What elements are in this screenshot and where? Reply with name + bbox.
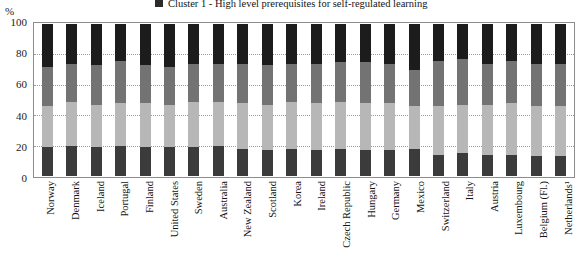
bar-segment bbox=[506, 61, 517, 104]
x-label-slot: Germany bbox=[378, 179, 403, 260]
stacked-bar[interactable] bbox=[164, 24, 175, 176]
stacked-bar[interactable] bbox=[335, 24, 346, 176]
bar-segment bbox=[457, 24, 468, 59]
bar-segment bbox=[506, 103, 517, 155]
x-axis-category-label: Finland bbox=[144, 181, 155, 213]
stacked-bar[interactable] bbox=[237, 24, 248, 176]
stacked-bar[interactable] bbox=[188, 24, 199, 176]
bar-segment bbox=[433, 106, 444, 155]
bar-segment bbox=[66, 102, 77, 146]
stacked-bar[interactable] bbox=[531, 24, 542, 176]
stacked-bar[interactable] bbox=[360, 24, 371, 176]
bar-segment bbox=[335, 24, 346, 62]
bar-segment bbox=[42, 106, 53, 147]
x-label-slot: Australia bbox=[205, 179, 230, 260]
stacked-bar[interactable] bbox=[555, 24, 566, 176]
stacked-bar[interactable] bbox=[115, 24, 126, 176]
bar-segment bbox=[188, 24, 199, 64]
stacked-bar[interactable] bbox=[91, 24, 102, 176]
bar-slot bbox=[133, 24, 157, 176]
bar-segment bbox=[188, 64, 199, 102]
bar-slot bbox=[280, 24, 304, 176]
bar-segment bbox=[506, 155, 517, 176]
x-axis-category-label: Czech Republic bbox=[341, 181, 352, 248]
bar-segment bbox=[409, 70, 420, 106]
stacked-bar[interactable] bbox=[311, 24, 322, 176]
x-axis-category-label: New Zealand bbox=[242, 181, 253, 237]
stacked-bar[interactable] bbox=[213, 24, 224, 176]
x-axis-category-label: Ireland bbox=[316, 181, 327, 211]
bar-slot bbox=[524, 24, 548, 176]
stacked-bar[interactable] bbox=[66, 24, 77, 176]
bar-segment bbox=[115, 103, 126, 146]
bar-segment bbox=[213, 64, 224, 102]
bar-segment bbox=[482, 24, 493, 64]
bar-slot bbox=[231, 24, 255, 176]
bar-segment bbox=[140, 65, 151, 103]
stacked-bar[interactable] bbox=[140, 24, 151, 176]
bar-segment bbox=[555, 156, 566, 176]
bar-segment bbox=[433, 155, 444, 176]
bar-segment bbox=[42, 147, 53, 176]
bar-slot bbox=[304, 24, 328, 176]
bar-segment bbox=[237, 103, 248, 149]
bar-segment bbox=[164, 24, 175, 67]
bar-segment bbox=[140, 24, 151, 65]
bar-segment bbox=[188, 102, 199, 148]
bar-segment bbox=[433, 24, 444, 60]
bar-segment bbox=[531, 64, 542, 107]
bar-segment bbox=[482, 155, 493, 176]
x-label-slot: Sweden bbox=[181, 179, 206, 260]
bar-segment bbox=[66, 24, 77, 64]
x-label-slot: Ireland bbox=[304, 179, 329, 260]
bar-slot bbox=[475, 24, 499, 176]
y-axis-tick: 20 bbox=[16, 141, 27, 153]
x-label-slot: Denmark bbox=[58, 179, 83, 260]
stacked-bar[interactable] bbox=[433, 24, 444, 176]
x-label-slot: Portugal bbox=[107, 179, 132, 260]
bar-segment bbox=[335, 102, 346, 149]
bar-segment bbox=[237, 24, 248, 64]
bar-slot bbox=[35, 24, 59, 176]
x-label-slot: Italy bbox=[452, 179, 477, 260]
y-axis-tick: 80 bbox=[16, 47, 27, 59]
bar-segment bbox=[42, 24, 53, 67]
bar-segment bbox=[91, 65, 102, 105]
y-axis-tick-labels: 100806040200 bbox=[0, 22, 30, 178]
legend-swatch-cluster1 bbox=[155, 0, 163, 7]
bar-slot bbox=[426, 24, 450, 176]
x-label-slot: Korea bbox=[279, 179, 304, 260]
bar-slot bbox=[84, 24, 108, 176]
x-axis-category-label: Austria bbox=[489, 181, 500, 212]
bar-slot bbox=[182, 24, 206, 176]
x-axis-category-label: Scotland bbox=[267, 181, 278, 218]
bar-segment bbox=[237, 64, 248, 104]
bar-segment bbox=[482, 105, 493, 155]
x-label-slot: Switzerland bbox=[427, 179, 452, 260]
bar-segment bbox=[384, 150, 395, 176]
bar-segment bbox=[42, 67, 53, 107]
x-axis-category-label: Switzerland bbox=[440, 181, 451, 231]
stacked-bar[interactable] bbox=[409, 24, 420, 176]
y-axis-tick: 0 bbox=[22, 172, 28, 184]
bar-segment bbox=[360, 24, 371, 62]
x-label-slot: Belgium (Fl.) bbox=[526, 179, 551, 260]
legend-label-cluster1: Cluster 1 - High level prerequisites for… bbox=[168, 0, 428, 9]
plot-area bbox=[33, 22, 575, 178]
bar-segment bbox=[335, 149, 346, 176]
bar-segment bbox=[531, 24, 542, 64]
stacked-bar[interactable] bbox=[42, 24, 53, 176]
stacked-bar[interactable] bbox=[506, 24, 517, 176]
bar-segment bbox=[555, 64, 566, 107]
stacked-bar[interactable] bbox=[384, 24, 395, 176]
bar-segment bbox=[433, 61, 444, 107]
bar-segment bbox=[262, 24, 273, 65]
bar-segment bbox=[555, 106, 566, 156]
stacked-bar[interactable] bbox=[457, 24, 468, 176]
stacked-bar[interactable] bbox=[482, 24, 493, 176]
stacked-bar[interactable] bbox=[262, 24, 273, 176]
bar-slot bbox=[353, 24, 377, 176]
bar-segment bbox=[360, 62, 371, 103]
chart-legend: Cluster 1 - High level prerequisites for… bbox=[155, 0, 428, 9]
stacked-bar[interactable] bbox=[286, 24, 297, 176]
